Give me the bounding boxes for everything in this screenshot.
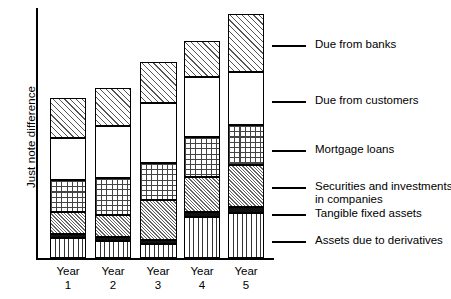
- segment-due-from-banks[interactable]: [140, 62, 177, 103]
- segment-mortgage-loans[interactable]: [95, 178, 131, 215]
- segment-due-from-banks[interactable]: [184, 41, 220, 77]
- segment-assets-due-derivatives[interactable]: [228, 213, 264, 258]
- legend-label: Due from customers: [315, 94, 419, 107]
- x-axis-line: [36, 258, 274, 260]
- segment-securities-investments[interactable]: [50, 212, 86, 234]
- segment-assets-due-derivatives[interactable]: [140, 244, 177, 258]
- legend-label: Assets due to derivatives: [315, 234, 443, 247]
- segment-due-from-customers[interactable]: [184, 77, 220, 137]
- legend-leader-line: [272, 241, 306, 243]
- legend-label-line1: Securities and investments: [315, 180, 451, 192]
- x-tick-line2: 4: [179, 278, 225, 292]
- legend-leader-line: [272, 187, 306, 189]
- segment-due-from-banks[interactable]: [95, 88, 131, 126]
- segment-due-from-customers[interactable]: [95, 126, 131, 178]
- x-tick-line2: 1: [45, 278, 91, 292]
- segment-mortgage-loans[interactable]: [184, 137, 220, 177]
- bar-year-5[interactable]: [228, 14, 264, 258]
- x-tick-line1: Year: [146, 265, 169, 277]
- segment-securities-investments[interactable]: [95, 215, 131, 237]
- legend-label-line2: in companies: [315, 193, 451, 206]
- segment-mortgage-loans[interactable]: [140, 163, 177, 200]
- segment-assets-due-derivatives[interactable]: [50, 238, 86, 258]
- stacked-bar-chart: Just note difference: [0, 0, 451, 299]
- legend-label: Due from banks: [315, 38, 396, 51]
- segment-due-from-banks[interactable]: [50, 98, 86, 138]
- x-tick-label-year-2: Year 2: [90, 264, 136, 292]
- legend-leader-line: [272, 214, 306, 216]
- bar-year-4[interactable]: [184, 41, 220, 258]
- bar-year-1[interactable]: [50, 98, 86, 258]
- y-axis-line: [36, 8, 38, 259]
- bar-year-3[interactable]: [140, 62, 177, 258]
- legend-label: Tangible fixed assets: [315, 207, 422, 220]
- segment-assets-due-derivatives[interactable]: [184, 217, 220, 258]
- segment-securities-investments[interactable]: [140, 200, 177, 240]
- bar-year-2[interactable]: [95, 88, 131, 258]
- segment-assets-due-derivatives[interactable]: [95, 241, 131, 258]
- segment-due-from-banks[interactable]: [228, 14, 264, 72]
- x-tick-line2: 5: [223, 278, 269, 292]
- segment-securities-investments[interactable]: [184, 177, 220, 212]
- legend-label: Mortgage loans: [315, 143, 394, 156]
- x-tick-line1: Year: [56, 265, 79, 277]
- segment-due-from-customers[interactable]: [50, 138, 86, 180]
- legend-label: Securities and investments in companies: [315, 180, 451, 206]
- x-tick-label-year-5: Year 5: [223, 264, 269, 292]
- x-tick-line1: Year: [190, 265, 213, 277]
- legend-leader-line: [272, 45, 306, 47]
- segment-mortgage-loans[interactable]: [228, 125, 264, 165]
- x-tick-line2: 3: [135, 278, 181, 292]
- x-tick-line1: Year: [101, 265, 124, 277]
- legend-leader-line: [272, 101, 306, 103]
- legend-label-line1: Tangible fixed assets: [315, 207, 422, 219]
- legend-label-line1: Due from banks: [315, 38, 396, 50]
- legend-label-line1: Mortgage loans: [315, 143, 394, 155]
- segment-due-from-customers[interactable]: [228, 72, 264, 125]
- x-tick-label-year-4: Year 4: [179, 264, 225, 292]
- x-tick-label-year-3: Year 3: [135, 264, 181, 292]
- x-tick-label-year-1: Year 1: [45, 264, 91, 292]
- segment-due-from-customers[interactable]: [140, 103, 177, 163]
- x-tick-line1: Year: [234, 265, 257, 277]
- legend-label-line1: Assets due to derivatives: [315, 234, 443, 246]
- legend-leader-line: [272, 150, 306, 152]
- x-tick-line2: 2: [90, 278, 136, 292]
- legend-label-line1: Due from customers: [315, 94, 419, 106]
- segment-mortgage-loans[interactable]: [50, 180, 86, 212]
- segment-securities-investments[interactable]: [228, 165, 264, 207]
